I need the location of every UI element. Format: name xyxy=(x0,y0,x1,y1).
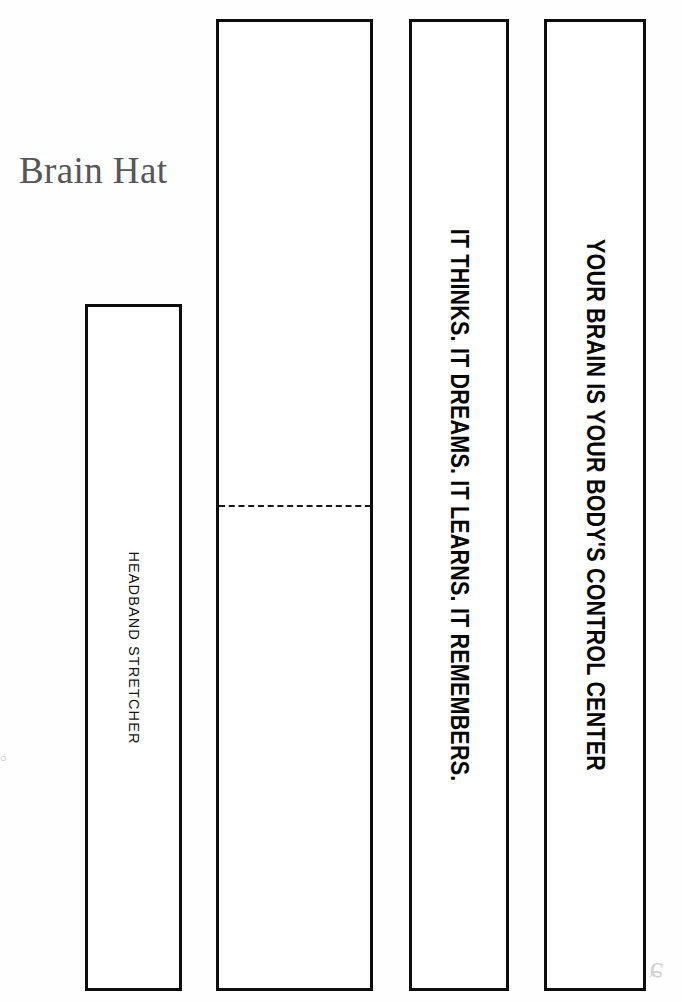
strip-headband-stretcher[interactable]: HEADBAND STRETCHER xyxy=(85,304,182,991)
strip-slogan-control-center-label: YOUR BRAIN IS YOUR BODY'S CONTROL CENTER xyxy=(580,239,610,771)
strip-slogan-thinks[interactable]: IT THINKS. IT DREAMS. IT LEARNS. IT REME… xyxy=(409,19,509,991)
scan-artifact-left: ° xyxy=(0,751,10,772)
printable-sheet: Brain Hat HEADBAND STRETCHER IT THINKS. … xyxy=(0,0,682,1002)
fold-line-dashed xyxy=(219,505,371,507)
strip-slogan-thinks-label: IT THINKS. IT DREAMS. IT LEARNS. IT REME… xyxy=(444,229,474,782)
strip-slogan-control-center[interactable]: YOUR BRAIN IS YOUR BODY'S CONTROL CENTER xyxy=(544,19,646,991)
page-title: Brain Hat xyxy=(19,152,167,189)
strip-headband-stretcher-label: HEADBAND STRETCHER xyxy=(126,551,142,744)
scan-artifact-corner: ɕ xyxy=(648,949,666,985)
